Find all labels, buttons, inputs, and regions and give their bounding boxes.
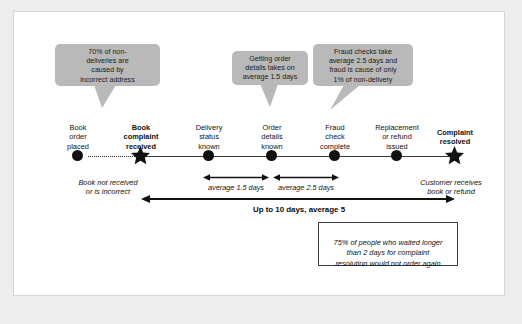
timeline-axis <box>146 156 455 157</box>
segment-label-2: average 2.5 days <box>266 183 346 192</box>
callout-order-details: Getting order details takes on average 1… <box>232 51 308 85</box>
segment-arrow-2 <box>272 172 340 183</box>
marker-fraud-check-complete <box>329 150 340 161</box>
total-duration-arrow <box>140 193 456 205</box>
fact-box-repeat-orders: 75% of people who waited longer than 2 d… <box>318 222 458 266</box>
fact-box-text: 75% of people who waited longer than 2 d… <box>334 238 443 267</box>
callout-incorrect-address: 70% of non- deliveries are caused by inc… <box>55 44 160 86</box>
callout-fraud-checks: Fraud checks take average 2.5 days and f… <box>313 44 413 86</box>
marker-delivery-status-known <box>203 150 214 161</box>
diagram-page: 70% of non- deliveries are caused by inc… <box>0 0 522 324</box>
callout-fraud-checks-text: Fraud checks take average 2.5 days and f… <box>317 48 409 85</box>
milestone-label-fraud-check-complete: Fraud check complete <box>306 113 364 151</box>
total-duration-label: Up to 10 days, average 5 <box>184 205 414 214</box>
segment-arrow-1 <box>202 172 270 183</box>
callout-incorrect-address-tail <box>94 85 120 109</box>
marker-order-details-known <box>266 150 277 161</box>
milestone-label-book-order-placed: Book order placed <box>48 113 108 151</box>
milestone-label-order-details-known: Order details known <box>243 113 301 151</box>
callout-order-details-tail <box>260 84 282 108</box>
marker-replacement-or-refund <box>391 150 402 161</box>
timeline-canvas: 70% of non- deliveries are caused by inc… <box>0 0 522 324</box>
callout-order-details-text: Getting order details takes on average 1… <box>236 55 304 83</box>
marker-book-order-placed <box>72 150 83 161</box>
timeline-dashed-segment <box>88 156 135 157</box>
milestone-label-complaint-resolved: Complaint resolved <box>421 118 489 147</box>
callout-fraud-checks-tail <box>330 85 362 111</box>
marker-book-complaint-received <box>131 146 150 165</box>
segment-label-1: average 1.5 days <box>196 183 276 192</box>
milestone-label-delivery-status-known: Delivery status known <box>180 113 238 151</box>
callout-incorrect-address-text: 70% of non- deliveries are caused by inc… <box>59 48 156 85</box>
marker-complaint-resolved <box>445 146 464 165</box>
